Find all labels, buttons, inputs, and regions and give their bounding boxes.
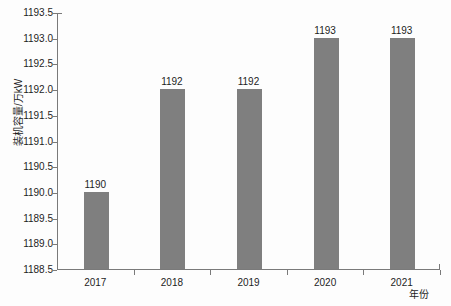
bar-value-label: 1193 [391, 25, 413, 36]
y-tick-label: 1193.0 [0, 34, 53, 44]
bar [390, 38, 415, 269]
x-axis-tick [134, 270, 135, 275]
x-axis-category-label: 2018 [161, 277, 183, 288]
bar [237, 89, 262, 269]
y-tick-label: 1192.5 [0, 59, 53, 69]
bar [314, 38, 339, 269]
x-axis-category-label: 2019 [237, 277, 259, 288]
bar-chart: 装机容量/万kW 1193.5 1193.0 1192.5 1192.0 119… [0, 0, 451, 306]
y-axis-top-stub [57, 13, 62, 14]
x-axis-title: 年份 [409, 289, 429, 300]
y-tick-label: 1190.5 [0, 162, 53, 172]
plot-area [57, 13, 440, 270]
y-tick-label: 1189.0 [0, 239, 53, 249]
y-tick-label: 1190.0 [0, 188, 53, 198]
x-axis-tick [363, 270, 364, 275]
bar-value-label: 1190 [85, 179, 107, 190]
y-tick-label: 1188.5 [0, 265, 53, 275]
y-tick-label: 1191.0 [0, 137, 53, 147]
bar [160, 89, 185, 269]
y-tick-label: 1192.0 [0, 85, 53, 95]
y-axis-tick [52, 270, 57, 271]
y-axis-tick-labels: 1193.5 1193.0 1192.5 1192.0 1191.5 1191.… [0, 13, 53, 270]
y-tick-label: 1191.5 [0, 111, 53, 121]
y-tick-label: 1189.5 [0, 214, 53, 224]
bar-value-label: 1192 [161, 76, 183, 87]
x-axis-tick [440, 270, 441, 275]
y-tick-label: 1193.5 [0, 8, 53, 18]
bar [84, 192, 109, 269]
bar-value-label: 1192 [238, 76, 260, 87]
x-axis-category-label: 2017 [84, 277, 106, 288]
x-axis-tick [287, 270, 288, 275]
x-axis-category-label: 2021 [391, 277, 413, 288]
bar-value-label: 1193 [314, 25, 336, 36]
x-axis-tick [210, 270, 211, 275]
x-axis-category-label: 2020 [314, 277, 336, 288]
